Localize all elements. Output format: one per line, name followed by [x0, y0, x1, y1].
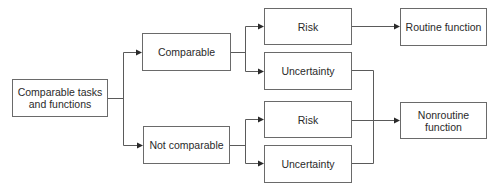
- node-comparable-tasks-and-functions: Comparable tasks and functions: [12, 79, 108, 117]
- node-label: Uncertainty: [281, 158, 334, 170]
- node-label: Risk: [298, 21, 318, 33]
- edge-uncertainty-1-out: [352, 71, 374, 164]
- flowchart-diagram: Comparable tasks and functions Comparabl…: [0, 0, 500, 193]
- node-label: Routine function: [406, 21, 482, 33]
- node-uncertainty-1: Uncertainty: [264, 52, 352, 90]
- node-risk-2: Risk: [264, 101, 352, 138]
- node-comparable: Comparable: [142, 33, 231, 71]
- node-label: Comparable: [158, 46, 215, 58]
- node-label: Not comparable: [149, 139, 223, 151]
- node-nonroutine-function: Nonroutine function: [400, 102, 487, 139]
- node-not-comparable: Not comparable: [143, 126, 230, 164]
- node-risk-1: Risk: [264, 8, 352, 45]
- node-label: Risk: [298, 114, 318, 126]
- node-uncertainty-2: Uncertainty: [264, 145, 352, 183]
- node-label: Nonroutine function: [418, 109, 469, 133]
- node-routine-function: Routine function: [400, 8, 487, 46]
- node-label: Uncertainty: [281, 65, 334, 77]
- node-label: Comparable tasks and functions: [18, 86, 103, 110]
